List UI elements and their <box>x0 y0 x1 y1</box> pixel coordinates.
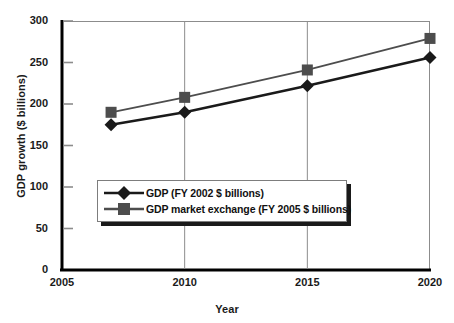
square-marker-icon <box>102 201 146 217</box>
plot-frame <box>62 22 430 271</box>
legend-item-gdp: GDP (FY 2002 $ billions) <box>102 185 340 201</box>
chart-legend: GDP (FY 2002 $ billions) GDP market exch… <box>97 180 347 222</box>
data-point-square <box>425 33 436 44</box>
legend-label-gdp-market-exchange: GDP market exchange (FY 2005 $ billions) <box>146 203 351 215</box>
data-point-square <box>106 107 117 118</box>
legend-item-gdp-market-exchange: GDP market exchange (FY 2005 $ billions) <box>102 201 340 217</box>
plot-area <box>0 0 454 323</box>
data-point-square <box>179 92 190 103</box>
diamond-marker-icon <box>102 185 146 201</box>
data-point-square <box>302 64 313 75</box>
legend-label-gdp: GDP (FY 2002 $ billions) <box>146 187 264 199</box>
gdp-growth-line-chart: GDP growth ($ billions) Year 05010015020… <box>0 0 454 323</box>
